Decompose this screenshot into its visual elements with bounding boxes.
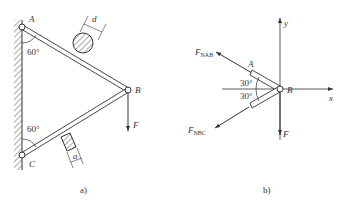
force-fnbc-arrow xyxy=(215,107,249,128)
angle-label-upper: 30° xyxy=(240,78,253,88)
bar-stub-bc xyxy=(250,87,280,108)
label-fnbc-sub: NBC xyxy=(194,130,206,136)
force-fnab-arrow xyxy=(216,52,252,73)
angle-label-top: 60° xyxy=(27,47,40,57)
figure-b: A B x y F FNAB FNBC 30° 30° b) xyxy=(187,18,333,195)
square-section xyxy=(61,133,83,168)
angle-label-bottom: 60° xyxy=(27,124,40,134)
label-a: A xyxy=(28,14,35,24)
label-y: y xyxy=(283,18,288,28)
pin-b-fbd xyxy=(277,86,283,92)
angle-label-lower: 30° xyxy=(240,91,253,101)
label-dim-a: a xyxy=(73,151,78,161)
pin-c xyxy=(19,152,25,158)
label-d: d xyxy=(92,14,97,24)
bar-stub-ab xyxy=(250,70,280,91)
wall-support xyxy=(14,20,22,170)
caption-b: b) xyxy=(263,185,271,195)
label-c: C xyxy=(29,159,36,169)
label-x: x xyxy=(328,93,333,103)
label-b: B xyxy=(135,85,141,95)
label-f-fbd: F xyxy=(282,129,289,139)
pin-a xyxy=(19,24,25,30)
label-b-fbd: B xyxy=(287,85,293,95)
member-ab xyxy=(22,25,128,93)
pin-b xyxy=(125,87,131,93)
label-fnab-sub: NAB xyxy=(201,52,214,58)
label-f: F xyxy=(132,120,139,130)
label-fnbc: FNBC xyxy=(187,125,206,136)
truss-diagram: A B C F d a 60° 60° a) A B x y F FNA xyxy=(0,0,338,205)
label-fnab: FNAB xyxy=(194,47,213,58)
figure-a: A B C F d a 60° 60° a) xyxy=(14,14,141,195)
label-a-fbd: A xyxy=(247,59,254,69)
caption-a: a) xyxy=(80,185,87,195)
circular-section xyxy=(73,16,106,53)
